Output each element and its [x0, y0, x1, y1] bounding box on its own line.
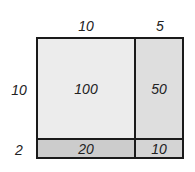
cell-product-50: 50 [136, 39, 182, 140]
top-label-tens: 10 [66, 18, 106, 34]
area-model-grid: 100 50 20 10 [36, 37, 184, 159]
side-label-tens: 10 [6, 82, 32, 98]
cell-value: 50 [151, 81, 167, 97]
side-label-ones: 2 [6, 142, 32, 158]
cell-value: 10 [151, 141, 167, 157]
cell-product-20: 20 [38, 140, 136, 157]
cell-product-10: 10 [136, 140, 182, 157]
top-label-ones: 5 [145, 18, 175, 34]
cell-value: 20 [78, 141, 94, 157]
cell-value: 100 [74, 81, 97, 97]
cell-product-100: 100 [38, 39, 136, 140]
